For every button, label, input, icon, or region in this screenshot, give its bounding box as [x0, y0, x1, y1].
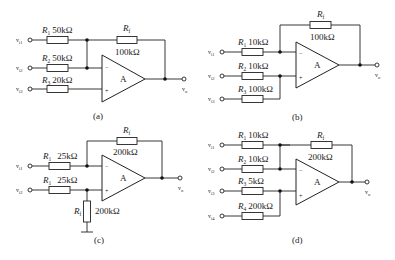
- svg-text:R150kΩ: R150kΩ: [41, 25, 73, 36]
- resistor-r2: [242, 166, 263, 173]
- svg-text:200kΩ: 200kΩ: [95, 206, 120, 216]
- svg-text:Rf: Rf: [316, 130, 325, 141]
- svg-text:Rf: Rf: [316, 9, 325, 20]
- svg-text:vi1: vi1: [16, 163, 23, 171]
- svg-text:vi2: vi2: [208, 73, 215, 81]
- svg-text:vo: vo: [365, 189, 371, 197]
- resistor-rf: [310, 22, 331, 29]
- svg-text:(b): (b): [292, 112, 303, 122]
- resistor-r1: [49, 163, 70, 170]
- svg-text:vi2: vi2: [16, 187, 23, 195]
- svg-text:A: A: [314, 60, 321, 70]
- svg-text:Rf: Rf: [122, 23, 131, 34]
- svg-text:Rf: Rf: [122, 125, 131, 136]
- circuit-a: A − + vi1 vi2 vi3 R150kΩ R250kΩ R320kΩ R…: [16, 23, 188, 121]
- resistor-rf-ground: [84, 201, 91, 222]
- svg-text:vi1: vi1: [208, 142, 215, 150]
- output-terminal: [182, 77, 186, 81]
- svg-text:R3100kΩ: R3100kΩ: [237, 84, 273, 95]
- input-terminal: [28, 87, 32, 91]
- svg-text:vi2: vi2: [208, 166, 215, 174]
- resistor-r3: [47, 86, 68, 93]
- svg-text:(d): (d): [292, 235, 303, 245]
- svg-text:vi3: vi3: [16, 86, 23, 94]
- circuit-b: A − + vi1 vi2 vi3 R110kΩ R210kΩ R3100kΩ …: [208, 9, 381, 122]
- svg-text:100kΩ: 100kΩ: [115, 47, 140, 57]
- svg-text:vi1: vi1: [16, 37, 23, 45]
- svg-text:R125kΩ: R125kΩ: [42, 175, 78, 186]
- svg-text:A: A: [120, 173, 127, 183]
- svg-text:vi1: vi1: [208, 49, 215, 57]
- svg-text:R110kΩ: R110kΩ: [237, 37, 269, 48]
- svg-text:vo: vo: [178, 185, 184, 193]
- svg-text:200kΩ: 200kΩ: [113, 147, 138, 157]
- opamp-label: A: [120, 74, 127, 84]
- svg-text:vo: vo: [182, 86, 188, 94]
- svg-text:R35kΩ: R35kΩ: [237, 176, 264, 187]
- resistor-rf: [117, 138, 137, 145]
- svg-text:(c): (c): [94, 235, 104, 245]
- svg-text:100kΩ: 100kΩ: [310, 32, 335, 42]
- svg-text:R4200kΩ: R4200kΩ: [237, 201, 273, 212]
- svg-text:R250kΩ: R250kΩ: [41, 53, 73, 64]
- resistor-r1: [242, 49, 263, 56]
- svg-text:R125kΩ: R125kΩ: [42, 151, 78, 162]
- svg-text:R210kΩ: R210kΩ: [237, 154, 269, 165]
- resistor-rf: [311, 142, 332, 149]
- op-amp-circuits-figure: A − + vi1 vi2 vi3 R150kΩ R250kΩ R320kΩ R…: [0, 0, 395, 260]
- svg-text:200kΩ: 200kΩ: [308, 152, 333, 162]
- svg-text:vi2: vi2: [16, 65, 23, 73]
- svg-text:vi3: vi3: [208, 188, 215, 196]
- svg-text:vi4: vi4: [208, 213, 215, 221]
- input-terminal: [28, 38, 32, 42]
- circuit-c: A − + vi1 vi2 R125kΩ R125kΩ Rf 200kΩ Rf …: [16, 125, 184, 245]
- caption: (a): [93, 111, 103, 121]
- resistor-r1: [47, 37, 68, 44]
- resistor-r1b: [49, 187, 70, 194]
- svg-text:Rf: Rf: [73, 206, 82, 217]
- svg-text:A: A: [314, 177, 321, 187]
- input-terminal: [28, 66, 32, 70]
- svg-text:vi3: vi3: [208, 96, 215, 104]
- resistor-r2: [47, 65, 68, 72]
- circuit-d: A − + vi1 vi2 vi3 vi4 R110kΩ R210kΩ R35k…: [208, 130, 371, 245]
- resistor-r4: [242, 213, 263, 220]
- resistor-r2: [242, 73, 263, 80]
- svg-text:R110kΩ: R110kΩ: [237, 130, 269, 141]
- svg-text:vo: vo: [375, 72, 381, 80]
- resistor-r3: [242, 188, 263, 195]
- svg-text:R210kΩ: R210kΩ: [237, 61, 269, 72]
- resistor-rf: [117, 37, 137, 44]
- resistor-r1: [242, 142, 263, 149]
- resistor-r3: [242, 96, 263, 103]
- svg-text:R320kΩ: R320kΩ: [41, 75, 73, 86]
